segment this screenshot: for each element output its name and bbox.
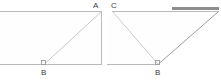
right-figure-group <box>107 9 219 65</box>
geometry-diagram <box>0 0 221 81</box>
vertex-label-c: C <box>111 2 117 10</box>
geometry-figure-canvas: A B C B <box>0 0 221 81</box>
right-triangle-fill <box>107 11 219 64</box>
left-figure-group <box>0 11 102 64</box>
left-rectangle-outline <box>0 11 102 64</box>
vertex-label-b-left: B <box>41 69 46 77</box>
vertex-label-a: A <box>93 2 98 10</box>
vertex-label-b-right: B <box>155 69 160 77</box>
